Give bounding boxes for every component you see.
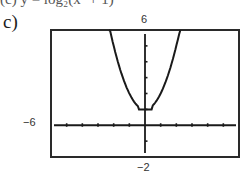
ymax-label: 6 bbox=[141, 13, 147, 25]
graph-window bbox=[0, 0, 243, 194]
ymin-label: −2 bbox=[137, 161, 150, 173]
axes bbox=[54, 34, 236, 153]
xmin-label: −6 bbox=[23, 116, 36, 128]
